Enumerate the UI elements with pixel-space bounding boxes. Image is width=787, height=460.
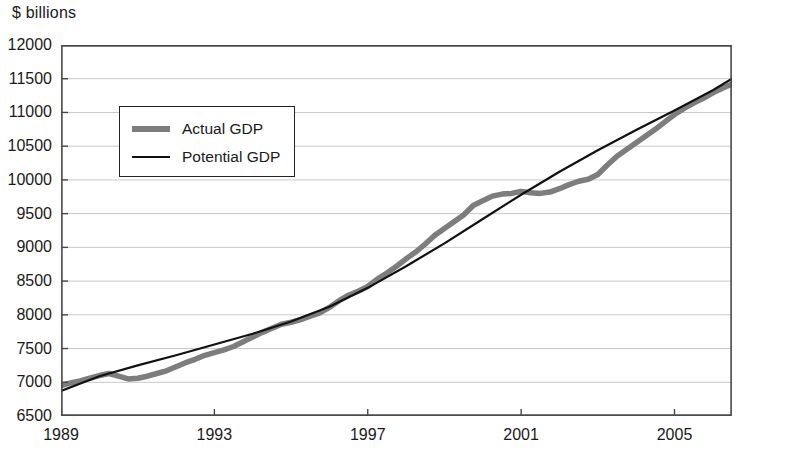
legend-swatch-actual-gdp (120, 126, 182, 132)
gdp-chart-figure: $ billions 12000115001100010500100009500… (0, 0, 787, 460)
x-tick-label: 2005 (657, 427, 693, 443)
thin-black-line-icon (132, 156, 170, 159)
x-tick-label: 1989 (43, 427, 79, 443)
x-tick-label: 1997 (350, 427, 386, 443)
thick-gray-line-icon (132, 126, 170, 132)
legend-label-actual-gdp: Actual GDP (182, 121, 263, 137)
legend-item-potential-gdp: Potential GDP (120, 143, 294, 171)
legend-swatch-potential-gdp (120, 156, 182, 159)
x-tick-label: 1993 (197, 427, 233, 443)
x-tick-label: 2001 (503, 427, 539, 443)
chart-legend: Actual GDP Potential GDP (119, 106, 295, 177)
legend-item-actual-gdp: Actual GDP (120, 115, 294, 143)
x-axis-tick-labels: 19891993199720012005 (0, 0, 787, 460)
legend-label-potential-gdp: Potential GDP (182, 149, 280, 165)
